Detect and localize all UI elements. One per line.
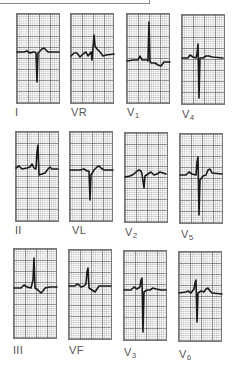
lead-label-text: V [182, 108, 190, 120]
lead-label-text: VL [72, 224, 86, 236]
ecg-trace-v4 [182, 44, 223, 98]
lead-label-vr: VR [71, 106, 87, 118]
ecg-trace-vr [71, 35, 114, 60]
lead-label-vl: VL [72, 224, 86, 236]
lead-label-subscript: 2 [133, 231, 138, 240]
ecg-trace-ii [16, 145, 58, 175]
lead-label-iii: III [13, 344, 23, 356]
lead-label-subscript: 1 [135, 111, 140, 120]
ecg-trace-vf [69, 268, 111, 292]
lead-label-text: VF [69, 344, 84, 356]
lead-label-text: V [181, 228, 189, 240]
ecg-trace-v6 [179, 280, 222, 322]
ecg-trace-v5 [180, 157, 222, 215]
lead-label-vf: VF [69, 344, 84, 356]
lead-label-subscript: 6 [187, 353, 192, 362]
lead-label-text: V [127, 106, 135, 118]
ecg-trace-vl [70, 166, 113, 200]
lead-label-v6: V6 [179, 348, 191, 362]
lead-label-i: I [15, 106, 18, 118]
lead-label-subscript: 3 [132, 351, 137, 360]
lead-label-v1: V1 [127, 106, 139, 120]
lead-label-v3: V3 [124, 346, 136, 360]
lead-label-text: II [15, 224, 22, 236]
lead-label-text: V [125, 226, 133, 238]
lead-label-text: I [15, 106, 18, 118]
lead-label-text: III [13, 344, 23, 356]
lead-label-subscript: 5 [189, 233, 194, 242]
lead-label-ii: II [15, 224, 22, 236]
ecg-trace-v3 [124, 278, 166, 332]
lead-label-v2: V2 [125, 226, 137, 240]
ecg-traces [0, 0, 238, 367]
lead-label-v4: V4 [182, 108, 194, 122]
lead-label-text: V [124, 346, 132, 358]
lead-label-subscript: 4 [190, 113, 195, 122]
ecg-trace-i [17, 48, 59, 82]
ecg-trace-v1 [127, 22, 170, 66]
ecg-trace-iii [14, 258, 57, 293]
lead-label-text: V [179, 348, 187, 360]
ecg-trace-v2 [125, 170, 166, 188]
lead-label-text: VR [71, 106, 87, 118]
lead-label-v5: V5 [181, 228, 193, 242]
